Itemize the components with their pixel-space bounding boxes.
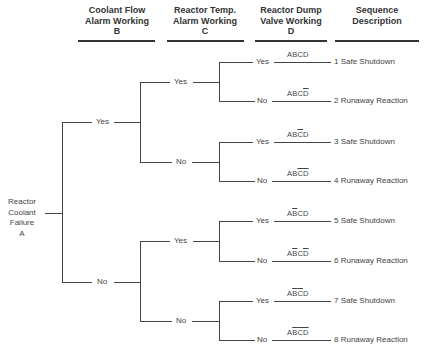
c-yes-no-line-left	[140, 162, 172, 163]
b-yes-label: Yes	[96, 117, 109, 127]
root-line4: A	[4, 229, 40, 240]
sequence-code: ABCD	[287, 169, 309, 179]
c-no-yes-label: Yes	[174, 236, 187, 246]
root-connector	[45, 213, 63, 214]
c-yes-yes-line-left	[140, 82, 170, 83]
d-yes-label: Yes	[256, 57, 269, 67]
sequence-description: 5 Safe Shutdown	[334, 216, 395, 226]
root-line3: Failure	[4, 218, 40, 229]
d-no-label: No	[257, 96, 267, 106]
d-no-label: No	[257, 256, 267, 266]
c-yes-no-line-right	[192, 162, 219, 163]
d-branch-stub	[219, 101, 255, 102]
c-yes-yes-line-right	[193, 82, 219, 83]
d-branch-stub	[219, 221, 253, 222]
sequence-code: ABCD	[287, 289, 309, 299]
d-branch-stub	[219, 142, 253, 143]
event-success-letter: D	[303, 50, 309, 59]
sequence-description: 6 Runaway Reaction	[334, 256, 408, 266]
header-underline-seq	[335, 40, 419, 42]
c-no-yes-line-right	[193, 241, 219, 242]
sequence-description: 4 Runaway Reaction	[334, 176, 408, 186]
c-yes-no-label: No	[176, 157, 186, 167]
d-split-4-vertical	[219, 301, 220, 341]
sequence-code: ABCD	[287, 209, 309, 219]
c-split-lower-vertical	[140, 241, 141, 322]
event-success-letter: D	[303, 289, 309, 298]
root-line2: Coolant	[4, 208, 40, 219]
c-no-no-line-left	[140, 321, 172, 322]
sequence-description: 1 Safe Shutdown	[334, 57, 395, 67]
header-underline-d	[255, 40, 327, 42]
sequence-code: ABCD	[287, 89, 309, 99]
d-no-label: No	[257, 335, 267, 345]
sequence-line	[274, 142, 331, 143]
sequence-code: ABCD	[287, 50, 309, 60]
event-success-letter: D	[303, 209, 309, 218]
header-d-line2: Valve Working	[254, 16, 328, 27]
header-b-line1: Coolant Flow	[78, 5, 156, 16]
sequence-line	[274, 301, 331, 302]
header-seq-line2: Description	[335, 16, 419, 27]
event-failed-letter: D	[303, 249, 309, 258]
c-no-no-label: No	[176, 316, 186, 326]
d-yes-label: Yes	[256, 216, 269, 226]
header-reactor-dump-valve: Reactor Dump Valve Working D	[254, 5, 328, 37]
header-reactor-temp-alarm: Reactor Temp. Alarm Working C	[166, 5, 244, 37]
header-c-line1: Reactor Temp.	[166, 5, 244, 16]
sequence-description: 3 Safe Shutdown	[334, 137, 395, 147]
c-no-no-line-right	[192, 321, 219, 322]
sequence-description: 2 Runaway Reaction	[334, 96, 408, 106]
b-no-line-right	[114, 282, 140, 283]
header-c-line2: Alarm Working	[166, 16, 244, 27]
sequence-code: ABCD	[287, 130, 309, 140]
event-failed-letter: D	[303, 328, 309, 337]
header-underline-b	[78, 40, 155, 42]
c-split-upper-vertical	[140, 82, 141, 162]
d-branch-stub	[219, 62, 253, 63]
header-d-letter: D	[254, 26, 328, 37]
d-yes-label: Yes	[256, 137, 269, 147]
sequence-line	[272, 261, 331, 262]
b-no-line-left	[62, 282, 92, 283]
sequence-description: 7 Safe Shutdown	[334, 296, 395, 306]
header-d-line1: Reactor Dump	[254, 5, 328, 16]
root-event-label: Reactor Coolant Failure A	[4, 197, 40, 239]
d-branch-stub	[219, 181, 255, 182]
header-underline-c	[167, 40, 244, 42]
d-split-2-vertical	[219, 142, 220, 182]
header-seq-line1: Sequence	[335, 5, 419, 16]
d-split-1-vertical	[219, 62, 220, 102]
c-no-yes-line-left	[140, 241, 170, 242]
sequence-line	[272, 181, 331, 182]
d-branch-stub	[219, 340, 255, 341]
event-failed-letter: D	[303, 169, 309, 178]
sequence-line	[272, 340, 331, 341]
b-no-label: No	[97, 277, 107, 287]
d-branch-stub	[219, 261, 255, 262]
sequence-code: ABCD	[287, 328, 309, 338]
sequence-code: ABCD	[287, 249, 309, 259]
header-sequence-description: Sequence Description	[335, 5, 419, 26]
b-split-vertical	[62, 122, 63, 283]
header-b-line2: Alarm Working	[78, 16, 156, 27]
sequence-line	[274, 221, 331, 222]
b-yes-line-right	[114, 122, 140, 123]
header-c-letter: C	[166, 26, 244, 37]
d-branch-stub	[219, 301, 253, 302]
d-no-label: No	[257, 176, 267, 186]
header-b-letter: B	[78, 26, 156, 37]
c-yes-yes-label: Yes	[174, 77, 187, 87]
root-line1: Reactor	[4, 197, 40, 208]
sequence-description: 8 Runaway Reaction	[334, 335, 408, 345]
b-yes-line-left	[62, 122, 92, 123]
sequence-line	[274, 62, 331, 63]
header-coolant-flow-alarm: Coolant Flow Alarm Working B	[78, 5, 156, 37]
event-failed-letter: D	[303, 89, 309, 98]
d-split-3-vertical	[219, 221, 220, 261]
d-yes-label: Yes	[256, 296, 269, 306]
sequence-line	[272, 101, 331, 102]
event-success-letter: D	[303, 130, 309, 139]
